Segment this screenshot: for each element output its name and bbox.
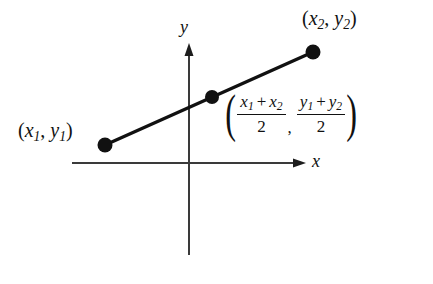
endpoint-dot-1: [98, 138, 113, 153]
point-2-x-var: x: [309, 7, 318, 29]
y-fraction-numerator: y1+y2: [297, 93, 345, 115]
x-num-operator: +: [254, 92, 270, 111]
point-1-close-paren: ): [66, 119, 73, 141]
x-num-second-subscript: 2: [277, 100, 283, 113]
point-2-close-paren: ): [350, 7, 357, 29]
point-1-label: (x1, y1): [18, 120, 73, 143]
y-midpoint-fraction: y1+y2 2: [297, 93, 345, 136]
x-axis-label: x: [312, 152, 320, 170]
point-1-y-var: y: [50, 119, 59, 141]
x-axis-arrowhead: [293, 159, 306, 168]
midpoint-formula-figure: (x1, y1) (x2, y2) y x ( x1+x2 2 , y1+y2 …: [0, 0, 433, 284]
point-2-y-var: y: [334, 7, 343, 29]
x-num-first-subscript: 1: [248, 100, 254, 113]
x-num-second-var: x: [269, 92, 277, 111]
midpoint-dot: [205, 90, 219, 104]
point-1-comma: ,: [40, 119, 50, 141]
point-2-label: (x2, y2): [302, 8, 357, 31]
point-2-comma: ,: [324, 7, 334, 29]
midpoint-formula-label: ( x1+x2 2 , y1+y2 2 ): [222, 90, 360, 138]
endpoint-dot-2: [306, 45, 321, 60]
y-axis-label: y: [180, 18, 188, 36]
x-midpoint-fraction: x1+x2 2: [237, 93, 285, 136]
formula-close-delimiter: ): [346, 90, 357, 138]
x-fraction-denominator: 2: [257, 115, 266, 135]
point-1-x-var: x: [25, 119, 34, 141]
y-num-second-subscript: 2: [336, 100, 342, 113]
x-num-first-var: x: [240, 92, 248, 111]
formula-separator-comma: ,: [288, 119, 292, 138]
point-2-open-paren: (: [302, 7, 309, 29]
y-num-operator: +: [313, 92, 329, 111]
y-fraction-denominator: 2: [317, 115, 326, 135]
formula-open-delimiter: (: [225, 90, 236, 138]
y-axis-arrowhead: [185, 43, 194, 56]
point-1-open-paren: (: [18, 119, 25, 141]
x-fraction-numerator: x1+x2: [237, 93, 285, 115]
